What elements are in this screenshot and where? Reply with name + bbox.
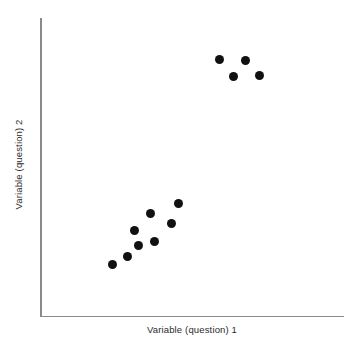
scatter-point <box>255 71 264 80</box>
scatter-point <box>146 209 155 218</box>
plot-area <box>40 18 343 316</box>
scatter-point <box>123 252 132 261</box>
scatter-point <box>167 219 176 228</box>
scatter-point <box>134 241 143 250</box>
scatter-point <box>229 72 238 81</box>
x-axis-label: Variable (question) 1 <box>40 324 344 335</box>
scatter-point <box>215 55 224 64</box>
scatter-point <box>130 226 139 235</box>
scatter-point <box>150 237 159 246</box>
scatter-point <box>174 199 183 208</box>
scatter-point <box>108 260 117 269</box>
scatter-plot-figure: Variable (question) 1 Variable (question… <box>0 0 362 354</box>
y-axis-label: Variable (question) 2 <box>13 65 24 265</box>
scatter-point <box>241 56 250 65</box>
